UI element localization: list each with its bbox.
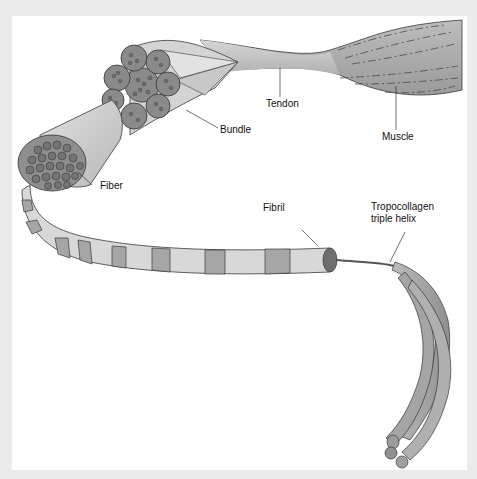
- muscle-shape: [200, 20, 462, 95]
- fibril-shape: [22, 185, 337, 274]
- muscle-label: Muscle: [382, 131, 414, 143]
- fiber-label: Fiber: [100, 180, 123, 192]
- bundle-label: Bundle: [220, 124, 251, 136]
- tropocollagen-label-line2: triple helix: [371, 213, 416, 225]
- triple-helix-shape: [336, 260, 451, 468]
- fiber-shape: [18, 100, 122, 191]
- fibril-leader-line: [302, 230, 318, 246]
- tendon-label: Tendon: [266, 98, 299, 110]
- collagen-hierarchy-illustration: [0, 0, 477, 479]
- fibril-label: Fibril: [263, 202, 285, 214]
- tropocollagen-label-line1: Tropocollagen: [371, 201, 434, 213]
- bundle-leader-line: [186, 110, 218, 128]
- tropocollagen-leader-line: [390, 232, 405, 262]
